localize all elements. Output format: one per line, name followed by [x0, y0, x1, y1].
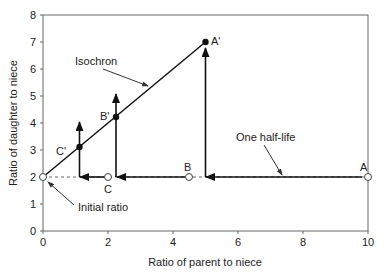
x-axis-label: Ratio of parent to niece	[148, 256, 262, 268]
point-B-prime	[113, 114, 119, 120]
isochron-line	[43, 42, 206, 177]
label-A-prime: A'	[211, 35, 220, 47]
point-origin	[40, 174, 47, 181]
x-tick-label: 10	[362, 236, 374, 248]
initial-ratio-pointer	[48, 182, 74, 205]
isochron-pointer	[103, 69, 148, 86]
x-tick-label: 4	[170, 236, 176, 248]
point-A-prime	[202, 39, 208, 45]
x-tick-label: 0	[40, 236, 46, 248]
label-B: B	[184, 161, 191, 173]
x-tick-label: 8	[300, 236, 306, 248]
y-axis-label: Ratio of daughter to niece	[7, 60, 19, 186]
y-tick-label: 7	[30, 36, 36, 48]
y-tick-label: 1	[30, 198, 36, 210]
x-tick-label: 2	[105, 236, 111, 248]
y-tick-label: 0	[30, 225, 36, 237]
y-tick-label: 3	[30, 144, 36, 156]
point-A	[365, 174, 372, 181]
annotation-initial-ratio: Initial ratio	[78, 201, 128, 213]
point-C-prime	[76, 144, 82, 150]
annotation-half-life: One half-life	[236, 131, 295, 143]
decay-paths	[80, 48, 363, 177]
point-B	[186, 174, 193, 181]
label-C: C	[104, 183, 112, 195]
label-B-prime: B'	[100, 110, 109, 122]
y-tick-label: 5	[30, 90, 36, 102]
point-C	[105, 174, 112, 181]
y-tick-label: 2	[30, 171, 36, 183]
label-C-prime: C'	[56, 145, 66, 157]
y-tick-label: 8	[30, 9, 36, 21]
y-tick-label: 4	[30, 117, 36, 129]
label-A: A	[360, 161, 368, 173]
x-tick-label: 6	[235, 236, 241, 248]
y-tick-label: 6	[30, 63, 36, 75]
isochron-diagram: 0 1 2 3 4 5 6 7 8 0 2 4 6 8 10 Ratio of …	[0, 0, 385, 276]
half-life-pointer	[264, 145, 282, 175]
annotation-isochron: Isochron	[75, 55, 117, 67]
